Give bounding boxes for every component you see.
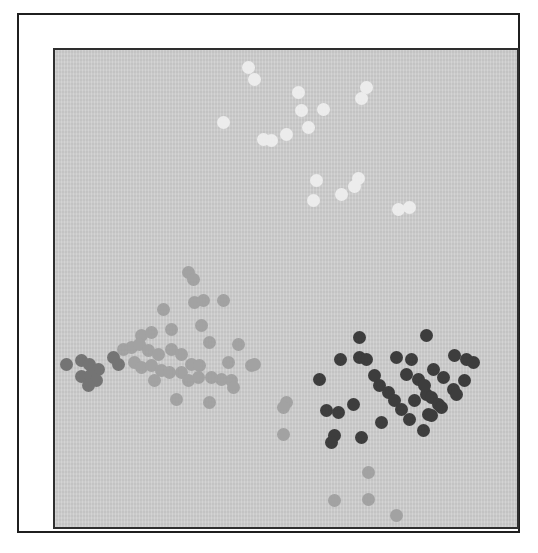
cluster-near-black-point — [418, 379, 431, 392]
cluster-near-black-point — [403, 413, 416, 426]
cluster-dark-gray-point — [112, 358, 125, 371]
cluster-light-gray-point — [197, 294, 210, 307]
cluster-white-point — [348, 180, 361, 193]
scatter-plot-area — [53, 48, 519, 529]
cluster-light-gray-point — [222, 356, 235, 369]
cluster-near-black-point — [450, 388, 463, 401]
cluster-near-black-point — [467, 356, 480, 369]
cluster-light-gray-point — [170, 393, 183, 406]
cluster-light-gray-point — [193, 359, 206, 372]
cluster-light-gray-point — [362, 493, 375, 506]
cluster-near-black-point — [390, 351, 403, 364]
cluster-light-gray-point — [227, 381, 240, 394]
cluster-white-point — [302, 121, 315, 134]
cluster-near-black-point — [448, 349, 461, 362]
cluster-light-gray-point — [277, 428, 290, 441]
cluster-near-black-point — [313, 373, 326, 386]
cluster-near-black-point — [458, 374, 471, 387]
cluster-white-point — [317, 103, 330, 116]
cluster-near-black-point — [355, 431, 368, 444]
cluster-dark-gray-point — [82, 379, 95, 392]
cluster-light-gray-point — [148, 374, 161, 387]
cluster-white-point — [295, 104, 308, 117]
cluster-light-gray-point — [192, 371, 205, 384]
cluster-white-point — [217, 116, 230, 129]
cluster-white-point — [242, 61, 255, 74]
cluster-white-point — [265, 134, 278, 147]
cluster-near-black-point — [408, 394, 421, 407]
cluster-near-black-point — [425, 409, 438, 422]
cluster-light-gray-point — [203, 336, 216, 349]
cluster-near-black-point — [437, 371, 450, 384]
cluster-light-gray-point — [277, 401, 290, 414]
cluster-near-black-point — [332, 406, 345, 419]
cluster-light-gray-point — [165, 323, 178, 336]
cluster-white-point — [280, 128, 293, 141]
cluster-near-black-point — [325, 436, 338, 449]
cluster-near-black-point — [417, 424, 430, 437]
cluster-light-gray-point — [145, 326, 158, 339]
cluster-dark-gray-point — [60, 358, 73, 371]
cluster-near-black-point — [405, 353, 418, 366]
cluster-light-gray-point — [157, 303, 170, 316]
cluster-near-black-point — [360, 353, 373, 366]
cluster-light-gray-point — [390, 509, 403, 522]
cluster-near-black-point — [347, 398, 360, 411]
cluster-light-gray-point — [248, 358, 261, 371]
cluster-white-point — [292, 86, 305, 99]
cluster-white-point — [248, 73, 261, 86]
cluster-white-point — [310, 174, 323, 187]
cluster-light-gray-point — [195, 319, 208, 332]
cluster-white-point — [335, 188, 348, 201]
cluster-light-gray-point — [175, 348, 188, 361]
cluster-light-gray-point — [328, 494, 341, 507]
cluster-light-gray-point — [217, 294, 230, 307]
cluster-white-point — [403, 201, 416, 214]
cluster-white-point — [307, 194, 320, 207]
cluster-near-black-point — [420, 329, 433, 342]
cluster-white-point — [355, 92, 368, 105]
cluster-light-gray-point — [163, 366, 176, 379]
cluster-light-gray-point — [362, 466, 375, 479]
cluster-light-gray-point — [187, 273, 200, 286]
cluster-near-black-point — [353, 331, 366, 344]
figure-outer-border — [17, 13, 520, 533]
cluster-light-gray-point — [203, 396, 216, 409]
cluster-near-black-point — [375, 416, 388, 429]
cluster-near-black-point — [400, 368, 413, 381]
cluster-light-gray-point — [232, 338, 245, 351]
cluster-near-black-point — [320, 404, 333, 417]
cluster-near-black-point — [334, 353, 347, 366]
figure-canvas — [0, 0, 538, 553]
